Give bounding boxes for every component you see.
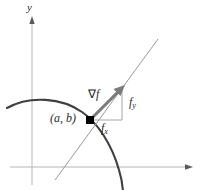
figure-canvas	[0, 0, 202, 190]
point-coordinates-label: (a, b)	[50, 112, 76, 124]
component-fy-label: fy	[129, 96, 136, 110]
gradient-function-label: f	[96, 87, 99, 101]
point-marker	[86, 116, 94, 124]
gradient-vector-label: ∇f	[88, 88, 99, 100]
x-axis-arrowhead-icon	[185, 164, 193, 169]
y-axis-label: y	[27, 2, 32, 13]
component-fy-subscript: y	[132, 101, 136, 110]
y-axis-arrowhead-icon	[29, 16, 34, 24]
component-fx-subscript: x	[104, 127, 108, 136]
component-fx-label: fx	[101, 122, 108, 136]
tangent-line	[55, 39, 158, 180]
nabla-icon: ∇	[88, 87, 96, 101]
gradient-level-curve-figure: y (a, b) ∇f fy fx	[0, 0, 202, 190]
